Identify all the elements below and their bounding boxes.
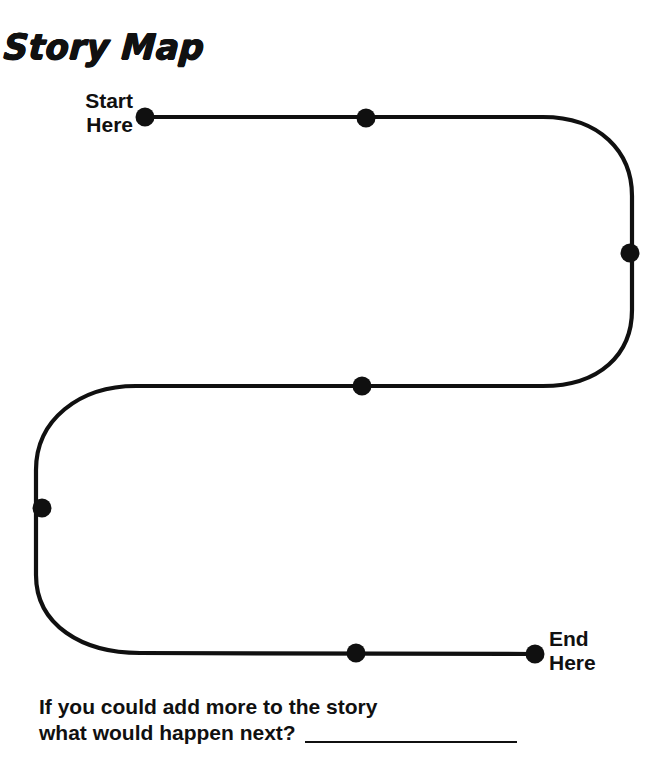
story-node-node-3[interactable] xyxy=(621,244,640,263)
story-node-start[interactable] xyxy=(136,108,155,127)
end-label-line1: End xyxy=(549,627,589,650)
start-here-label: Start Here xyxy=(55,89,133,136)
story-node-node-2[interactable] xyxy=(357,109,376,128)
start-label-line1: Start xyxy=(85,89,133,112)
start-label-line2: Here xyxy=(55,113,133,137)
story-node-node-4[interactable] xyxy=(353,377,372,396)
prompt-line-1: If you could add more to the story xyxy=(39,694,579,720)
end-here-label: End Here xyxy=(549,627,596,674)
end-label-line2: Here xyxy=(549,651,596,675)
story-map-worksheet: Story Map Start Here End Here If you cou… xyxy=(0,0,647,770)
story-node-node-6[interactable] xyxy=(347,644,366,663)
story-node-end[interactable] xyxy=(526,645,545,664)
answer-blank-line[interactable] xyxy=(305,741,517,743)
story-node-node-5[interactable] xyxy=(33,499,52,518)
prompt-line-2: what would happen next? xyxy=(39,720,296,746)
writing-prompt: If you could add more to the story what … xyxy=(39,694,579,747)
story-path-line xyxy=(36,117,632,654)
